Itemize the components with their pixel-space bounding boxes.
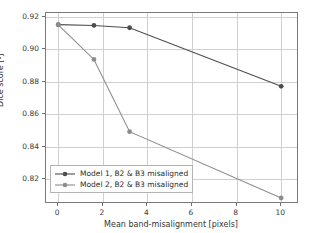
legend-marker-icon bbox=[54, 180, 76, 190]
x-tick-label: 6 bbox=[189, 208, 194, 217]
series-point bbox=[56, 22, 61, 27]
y-tick-label: 0.92 bbox=[0, 12, 39, 21]
y-tick-label: 0.90 bbox=[0, 44, 39, 53]
legend-item: Model 1, B2 & B3 misaligned bbox=[54, 168, 188, 179]
x-tick-label: 0 bbox=[55, 208, 60, 217]
y-tick-label: 0.88 bbox=[0, 76, 39, 85]
x-tick-label: 10 bbox=[275, 208, 285, 217]
series-point bbox=[127, 129, 132, 134]
legend-label: Model 1, B2 & B3 misaligned bbox=[80, 169, 188, 178]
legend-marker-icon bbox=[54, 169, 76, 179]
series-point bbox=[279, 196, 284, 201]
chart-figure: Dice score [-] Mean band-misalignment [p… bbox=[0, 0, 313, 233]
x-tick-label: 4 bbox=[144, 208, 149, 217]
series-line bbox=[58, 25, 281, 87]
x-axis-label: Mean band-misalignment [pixels] bbox=[104, 220, 238, 229]
legend: Model 1, B2 & B3 misaligned Model 2, B2 … bbox=[50, 165, 193, 193]
y-tick-label: 0.82 bbox=[0, 173, 39, 182]
legend-item: Model 2, B2 & B3 misaligned bbox=[54, 179, 188, 190]
series-point bbox=[127, 25, 132, 30]
series-point bbox=[92, 57, 97, 62]
legend-label: Model 2, B2 & B3 misaligned bbox=[80, 180, 188, 189]
x-tick-label: 8 bbox=[233, 208, 238, 217]
series-point bbox=[92, 23, 97, 28]
y-tick-label: 0.86 bbox=[0, 109, 39, 118]
series-point bbox=[279, 84, 284, 89]
y-tick-label: 0.84 bbox=[0, 141, 39, 150]
x-tick-label: 2 bbox=[99, 208, 104, 217]
